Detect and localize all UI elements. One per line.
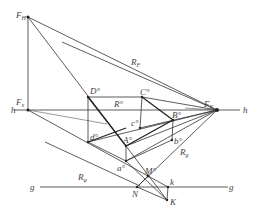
line-M-N [137, 176, 148, 187]
label-K: K [169, 197, 177, 207]
point-A [125, 145, 127, 147]
label-fy: FY [203, 99, 214, 110]
label-k: k [170, 177, 175, 187]
edge-C-B [142, 97, 173, 120]
label-fh: FH [15, 10, 27, 21]
label-N: N [131, 189, 139, 199]
line-fh-fy [28, 17, 217, 110]
rf-trace-line [62, 42, 217, 110]
label-g-right: g [229, 182, 234, 192]
label-M: M° [144, 166, 156, 176]
edge-B-b [172, 120, 173, 140]
label-B: B° [172, 110, 181, 120]
label-rf: RF [130, 57, 141, 68]
line-M-k [148, 176, 168, 187]
point-b [171, 139, 173, 141]
label-fx: Fx [15, 97, 25, 108]
label-d: d° [90, 132, 99, 142]
edge-C-c [140, 97, 142, 128]
perspective-diagram: FH Fx h h FY g g RF Rg Rφ R° D° C° c° B°… [0, 0, 257, 215]
line-k-K [167, 187, 168, 200]
point-c [139, 127, 141, 129]
point-K [166, 199, 168, 201]
edge-d-a [88, 142, 126, 161]
line-fx-upper [28, 110, 107, 124]
point-fh [26, 15, 29, 18]
point-fx [26, 108, 29, 111]
label-b: b° [174, 136, 183, 146]
label-D: D° [89, 86, 100, 96]
point-k [167, 186, 169, 188]
label-h-right: h [243, 105, 248, 115]
point-N [136, 186, 138, 188]
point-a [125, 160, 127, 162]
point-fy [215, 108, 219, 112]
label-rphi: Rφ [77, 172, 88, 183]
label-a: a° [117, 163, 126, 173]
point-D [87, 96, 89, 98]
label-h-left: h [11, 105, 16, 115]
label-g-left: g [30, 182, 35, 192]
point-d [87, 141, 89, 143]
label-rg: Rg [179, 147, 189, 158]
label-C: C° [140, 87, 150, 97]
label-c: c° [131, 118, 139, 128]
label-A: A° [122, 135, 132, 145]
label-r-prime: R° [113, 99, 123, 109]
